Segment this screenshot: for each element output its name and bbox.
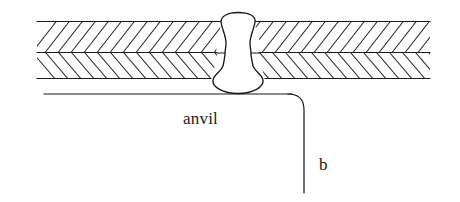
- label-dimension-b: b: [319, 156, 328, 173]
- label-anvil: anvil: [183, 110, 218, 127]
- figure-container: anvil b: [0, 0, 460, 202]
- leader-line-b: [288, 94, 304, 193]
- cross-section-drawing: [0, 0, 460, 202]
